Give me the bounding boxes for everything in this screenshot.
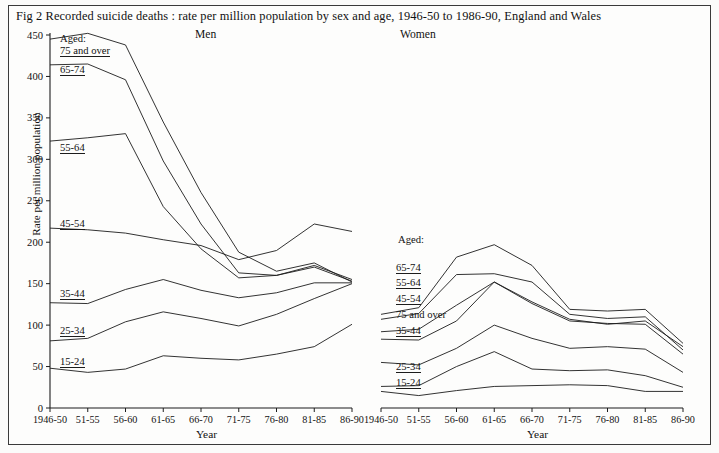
y-axis-tick-label: 350	[27, 112, 43, 123]
y-axis-tick-label: 150	[27, 278, 43, 289]
y-axis-tick-label: 250	[27, 195, 43, 206]
x-axis-tick-label: 76-80	[265, 414, 289, 425]
y-axis-tick-label: 300	[27, 154, 43, 165]
series-line-25-34	[50, 284, 352, 341]
x-axis-tick-label: 81-85	[633, 414, 657, 425]
x-axis-tick-label: 56-60	[445, 414, 469, 425]
y-axis-tick-label: 200	[27, 237, 43, 248]
series-line-55-64	[50, 134, 352, 282]
x-axis-tick-label: 71-75	[558, 414, 582, 425]
x-axis-tick-label: 86-90	[671, 414, 695, 425]
series-line-75-and-over	[50, 33, 352, 282]
y-axis-tick-label: 100	[27, 320, 43, 331]
x-axis-tick-label: 76-80	[596, 414, 620, 425]
y-axis-tick-label: 0	[38, 403, 43, 414]
x-axis-tick-label: 66-70	[189, 414, 213, 425]
x-axis-tick-label: 56-60	[114, 414, 138, 425]
x-axis-tick-label: 86-90	[340, 414, 364, 425]
x-axis-tick-label: 66-70	[520, 414, 544, 425]
x-axis-tick-label: 71-75	[227, 414, 251, 425]
y-axis-tick-label: 50	[32, 361, 43, 372]
panel-women: 1946-5051-5556-6061-6566-7071-7576-8081-…	[364, 245, 695, 425]
x-axis-tick-label: 1946-50	[364, 414, 398, 425]
y-axis-tick-label: 400	[27, 71, 43, 82]
figure-root: Fig 2 Recorded suicide deaths : rate per…	[0, 0, 719, 453]
series-line-15-24	[50, 324, 352, 372]
series-line-75-and-over	[381, 282, 683, 354]
series-line-35-44	[50, 280, 352, 304]
y-axis-tick-label: 450	[27, 30, 43, 41]
series-line-65-74	[50, 64, 352, 280]
series-line-35-44	[381, 325, 683, 372]
series-line-25-34	[381, 352, 683, 388]
x-axis-tick-label: 61-65	[482, 414, 506, 425]
x-axis-tick-label: 61-65	[151, 414, 175, 425]
series-line-45-54	[50, 224, 352, 260]
x-axis-tick-label: 51-55	[407, 414, 431, 425]
series-line-15-24	[381, 385, 683, 396]
panel-men: 1946-5051-5556-6061-6566-7071-7576-8081-…	[33, 33, 364, 425]
chart-canvas: 4504003503002502001501005001946-5051-555…	[0, 0, 719, 453]
x-axis-tick-label: 81-85	[302, 414, 326, 425]
series-line-65-74	[381, 245, 683, 344]
x-axis-tick-label: 1946-50	[33, 414, 67, 425]
x-axis-tick-label: 51-55	[76, 414, 100, 425]
series-line-45-54	[381, 282, 683, 347]
